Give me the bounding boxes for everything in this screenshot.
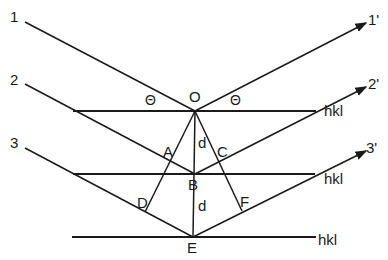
bragg-diagram: 1 2 3 1' 2' 3' Θ Θ O A B C D E F d d hkl… [0, 0, 388, 260]
ray-label-3-prime: 3' [366, 139, 377, 156]
line-OD [145, 111, 195, 212]
spacing-label-lower: d [198, 197, 206, 214]
angle-label-incident: Θ [145, 92, 156, 108]
reflected-ray-3 [193, 151, 366, 237]
spacing-label-upper: d [198, 134, 206, 151]
point-label-O: O [189, 88, 201, 105]
incident-ray-3 [25, 148, 193, 237]
point-label-C: C [217, 143, 228, 160]
reflected-ray-1 [195, 23, 366, 111]
ray-label-3: 3 [10, 134, 18, 151]
point-label-A: A [163, 143, 173, 160]
point-label-D: D [137, 194, 148, 211]
point-label-F: F [240, 193, 249, 210]
angle-label-reflected: Θ [230, 92, 241, 108]
point-label-B: B [188, 176, 198, 193]
line-OF [195, 111, 242, 211]
reflected-ray-2 [195, 87, 366, 174]
point-label-E: E [187, 239, 197, 256]
plane-label-1: hkl [324, 102, 343, 119]
ray-label-2: 2 [10, 71, 18, 88]
plane-label-2: hkl [324, 170, 343, 187]
ray-label-1-prime: 1' [368, 11, 379, 28]
incident-rays [25, 22, 195, 237]
ray-label-1: 1 [10, 8, 18, 25]
normal-line-OE [193, 111, 195, 237]
plane-label-3: hkl [318, 231, 337, 248]
reflected-rays [193, 23, 366, 237]
ray-label-2-prime: 2' [368, 75, 379, 92]
